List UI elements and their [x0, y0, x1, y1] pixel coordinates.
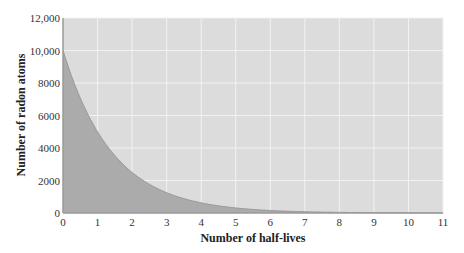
y-tick-label: 12,000	[30, 12, 61, 24]
y-tick-label: 2000	[38, 175, 61, 187]
y-tick-label: 0	[55, 207, 61, 219]
x-tick-label: 3	[164, 216, 170, 228]
x-tick-label: 11	[438, 216, 449, 228]
x-tick-label: 4	[198, 216, 204, 228]
decay-chart: 01234567891011 0200040006000800010,00012…	[0, 0, 464, 253]
x-tick-label: 6	[268, 216, 274, 228]
y-tick-label: 10,000	[30, 45, 61, 57]
x-tick-label: 9	[371, 216, 377, 228]
y-tick-label: 6000	[38, 110, 61, 122]
x-tick-label: 10	[403, 216, 415, 228]
y-tick-labels: 0200040006000800010,00012,000	[30, 12, 61, 219]
y-axis-title: Number of radon atoms	[14, 53, 28, 176]
x-tick-label: 0	[60, 216, 66, 228]
x-tick-label: 1	[95, 216, 101, 228]
x-axis-title: Number of half-lives	[200, 231, 305, 245]
x-tick-label: 2	[129, 216, 135, 228]
y-tick-label: 4000	[38, 142, 61, 154]
x-tick-label: 8	[337, 216, 343, 228]
x-tick-labels: 01234567891011	[60, 216, 448, 228]
x-tick-label: 7	[302, 216, 308, 228]
y-tick-label: 8000	[38, 77, 61, 89]
x-tick-label: 5	[233, 216, 239, 228]
